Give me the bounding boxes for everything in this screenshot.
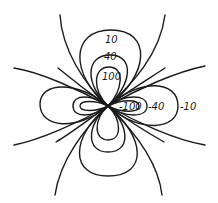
label-minus100: -100	[119, 101, 142, 112]
label-minus40: -40	[148, 101, 164, 112]
label-40: 40	[104, 51, 117, 62]
contour-diagram: 10 40 100 -100 -40 -10	[0, 0, 218, 203]
label-100: 100	[102, 71, 121, 82]
label-minus10: -10	[180, 101, 196, 112]
label-10: 10	[105, 34, 118, 45]
